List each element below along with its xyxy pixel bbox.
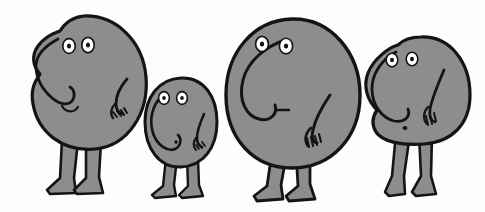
figure-3-body [226, 19, 360, 168]
illustration-canvas: Four Grey Blob Creatures [0, 0, 485, 212]
figure-4-left-pupil [390, 58, 394, 63]
figure-2-left-pupil [162, 96, 166, 100]
figure-1-right-pupil [86, 43, 90, 48]
figure-4-right-pupil [410, 57, 414, 62]
figure-3-left-pupil [260, 41, 264, 46]
figure-1-left-pupil [67, 44, 71, 49]
figure-1-body [32, 16, 146, 149]
figure-2-right-pupil [180, 96, 184, 100]
figure-2-mouth-dot [174, 140, 177, 143]
figure-3-right-pupil [284, 43, 288, 48]
blob-characters-drawing [0, 0, 485, 212]
figure-4-body [366, 37, 470, 144]
figure-4-mouth-dot [403, 126, 408, 130]
